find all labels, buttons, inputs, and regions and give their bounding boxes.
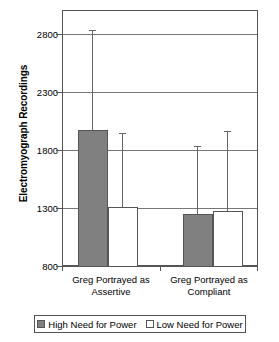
errorbar-cap-compliant-high-need	[194, 146, 201, 147]
x-category-label-assertive-line2: Assertive	[59, 286, 163, 298]
y-axis-title: Electromyograph Recordings	[18, 9, 29, 259]
y-tick-label-2300: 2300	[18, 87, 58, 98]
legend-label-low-need: Low Need for Power	[157, 319, 243, 330]
x-category-label-compliant: Greg Portrayed as Compliant	[157, 274, 261, 298]
legend-swatch-low-need-icon	[146, 320, 154, 328]
x-tick-mark-end	[257, 266, 258, 271]
errorbar-cap-compliant-low-need	[224, 131, 231, 132]
y-tick-label-1800: 1800	[18, 145, 58, 156]
y-tick-label-2800: 2800	[18, 29, 58, 40]
errorbar-assertive-low-need	[122, 133, 123, 207]
plot-area	[62, 10, 258, 266]
x-category-label-compliant-line2: Compliant	[157, 286, 261, 298]
x-category-label-assertive: Greg Portrayed as Assertive	[59, 274, 163, 298]
errorbar-compliant-low-need	[227, 131, 228, 211]
bar-compliant-low-need	[213, 211, 243, 267]
chart-legend: High Need for Power Low Need for Power	[34, 315, 246, 333]
y-tick-label-800: 800	[18, 261, 58, 272]
x-tick-mark-start	[62, 266, 63, 271]
legend-swatch-high-need-icon	[37, 320, 45, 328]
errorbar-cap-assertive-high-need	[89, 30, 96, 31]
bar-assertive-low-need	[108, 207, 138, 267]
bar-chart-figure: Electromyograph Recordings 2800 2300 180…	[0, 0, 279, 342]
legend-item-high-need-for-power: High Need for Power	[37, 319, 136, 330]
errorbar-assertive-high-need	[92, 30, 93, 130]
bar-assertive-high-need	[78, 130, 108, 267]
errorbar-cap-assertive-low-need	[119, 133, 126, 134]
legend-label-high-need: High Need for Power	[48, 319, 136, 330]
y-tick-label-1300: 1300	[18, 203, 58, 214]
x-category-label-compliant-line1: Greg Portrayed as	[157, 274, 261, 286]
x-tick-mark-middle	[160, 266, 161, 271]
bar-compliant-high-need	[183, 214, 213, 267]
x-category-label-assertive-line1: Greg Portrayed as	[59, 274, 163, 286]
legend-item-low-need-for-power: Low Need for Power	[146, 319, 243, 330]
errorbar-compliant-high-need	[197, 146, 198, 214]
